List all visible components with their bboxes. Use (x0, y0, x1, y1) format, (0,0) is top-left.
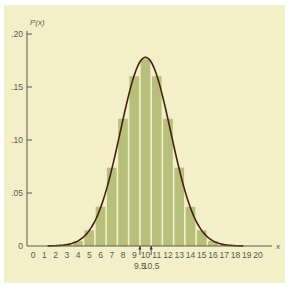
x-tick-label: 0 (31, 250, 36, 260)
x-tick-label: 16 (208, 250, 218, 260)
bar-9 (129, 76, 139, 246)
bar-14 (186, 207, 196, 246)
x-tick-label: 4 (76, 250, 81, 260)
x-tick-label: 18 (231, 250, 241, 260)
annotation-label: 10.5 (143, 261, 160, 271)
x-tick-label: 15 (197, 250, 207, 260)
x-tick-label: 10 (141, 250, 151, 260)
y-ticks: .20.15.10.050 (11, 29, 32, 251)
x-tick-label: 5 (87, 250, 92, 260)
bar-6 (96, 207, 106, 246)
x-tick-label: 7 (109, 250, 114, 260)
x-tick-label: 20 (253, 250, 263, 260)
x-tick-label: 14 (186, 250, 196, 260)
y-axis-title: P(x) (30, 18, 45, 27)
x-tick-label: 11 (152, 250, 161, 260)
y-tick-label: .20 (11, 29, 23, 39)
x-tick-label: 8 (121, 250, 126, 260)
y-tick-label: .05 (11, 188, 23, 198)
y-tick-label: .10 (11, 135, 23, 145)
x-ticks: 01234567891011121314151617181920 (31, 250, 263, 260)
histogram-chart: .20.15.10.050 01234567891011121314151617… (0, 0, 289, 291)
x-tick-label: 19 (242, 250, 252, 260)
x-tick-label: 6 (98, 250, 103, 260)
x-tick-label: 13 (175, 250, 185, 260)
x-tick-label: 9 (132, 250, 137, 260)
bar-15 (197, 230, 207, 246)
y-tick-label: .15 (11, 82, 23, 92)
bar-5 (84, 230, 94, 246)
y-tick-label: 0 (18, 241, 23, 251)
x-tick-label: 17 (220, 250, 230, 260)
bars-group (62, 59, 229, 246)
bar-10 (141, 59, 151, 246)
x-axis-title: x (275, 242, 281, 251)
x-tick-label: 12 (163, 250, 173, 260)
x-tick-label: 1 (42, 250, 47, 260)
x-tick-label: 3 (64, 250, 69, 260)
x-tick-label: 2 (53, 250, 58, 260)
bar-11 (152, 76, 162, 246)
